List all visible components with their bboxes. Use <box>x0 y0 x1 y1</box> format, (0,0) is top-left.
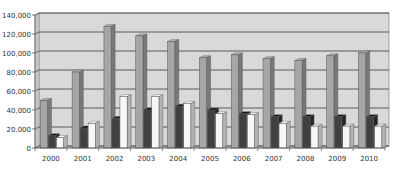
bar: Series 2 2009: 33000 <box>335 117 342 148</box>
y-tick-label: 140,000 <box>2 12 31 20</box>
y-tick-label: 120,000 <box>2 31 31 39</box>
bar: Series 1 2004: 112000 <box>168 42 175 148</box>
bar: Series 3 2007: 26000 <box>279 123 286 148</box>
bar: Series 1 2009: 97000 <box>327 56 334 148</box>
y-tick-label: 20,000 <box>7 126 32 134</box>
bar: Series 3 2005: 36000 <box>215 114 222 148</box>
bar: Series 2 2001: 21000 <box>80 128 87 148</box>
x-tick-label: 2006 <box>233 155 251 163</box>
y-axis: 020,00040,00060,00080,000100,000120,0001… <box>2 12 35 153</box>
bar: Series 3 2009: 23000 <box>343 126 350 148</box>
x-tick-label: 2003 <box>137 155 155 163</box>
y-tick-label: 40,000 <box>7 107 32 115</box>
x-tick-label: 2002 <box>106 155 124 163</box>
bar: Series 3 2002: 54000 <box>120 97 127 148</box>
bar: Series 1 2010: 100000 <box>358 53 365 148</box>
bar: Series 1 2000: 50000 <box>40 101 47 149</box>
bar: Series 2 2005: 40000 <box>207 110 214 148</box>
x-tick-label: 2000 <box>42 155 60 163</box>
y-tick-label: 100,000 <box>2 50 31 58</box>
bar: Series 2 2010: 33000 <box>366 117 373 148</box>
bar: Series 3 2004: 47000 <box>184 103 191 148</box>
bar: Series 3 2006: 35000 <box>247 115 254 148</box>
bar: Series 1 2008: 92000 <box>295 61 302 148</box>
y-tick-label: 80,000 <box>7 69 32 77</box>
x-tick-label: 2001 <box>74 155 92 163</box>
x-tick-label: 2004 <box>169 155 187 163</box>
bar: Series 3 2010: 23000 <box>374 126 381 148</box>
y-tick-label: 0 <box>27 145 31 153</box>
x-tick-label: 2007 <box>265 155 283 163</box>
y-tick-label: 60,000 <box>7 88 32 96</box>
bar: Series 2 2000: 13000 <box>48 136 55 148</box>
bar: Series 2 2004: 44000 <box>176 106 183 148</box>
bar: Series 1 2002: 128000 <box>104 26 111 148</box>
bar: Series 1 2007: 94000 <box>263 59 270 148</box>
bar: Series 1 2006: 98000 <box>231 55 238 148</box>
bar: Series 3 2001: 26000 <box>88 123 95 148</box>
x-tick-label: 2010 <box>360 155 378 163</box>
bar: Series 2 2006: 36000 <box>239 114 246 148</box>
bar: Series 3 2008: 23000 <box>311 126 318 148</box>
x-axis: 2000200120022003200420052006200720082009… <box>35 148 385 163</box>
bar: Series 1 2001: 80000 <box>72 72 79 148</box>
bar-chart: 020,00040,00060,00080,000100,000120,0001… <box>0 0 395 172</box>
bar: Series 2 2003: 40000 <box>144 110 151 148</box>
bar: Series 2 2002: 31000 <box>112 119 119 148</box>
bar: Series 2 2008: 33000 <box>303 117 310 148</box>
x-tick-label: 2009 <box>328 155 346 163</box>
bar: Series 2 2007: 33000 <box>271 117 278 148</box>
bar: Series 3 2003: 54000 <box>152 97 159 148</box>
x-tick-label: 2008 <box>297 155 315 163</box>
bar: Series 3 2000: 11000 <box>56 138 63 148</box>
x-tick-label: 2005 <box>201 155 219 163</box>
bar: Series 1 2003: 118000 <box>136 36 143 148</box>
bar: Series 1 2005: 95000 <box>199 58 206 148</box>
chart-container: 020,00040,00060,00080,000100,000120,0001… <box>0 0 395 172</box>
